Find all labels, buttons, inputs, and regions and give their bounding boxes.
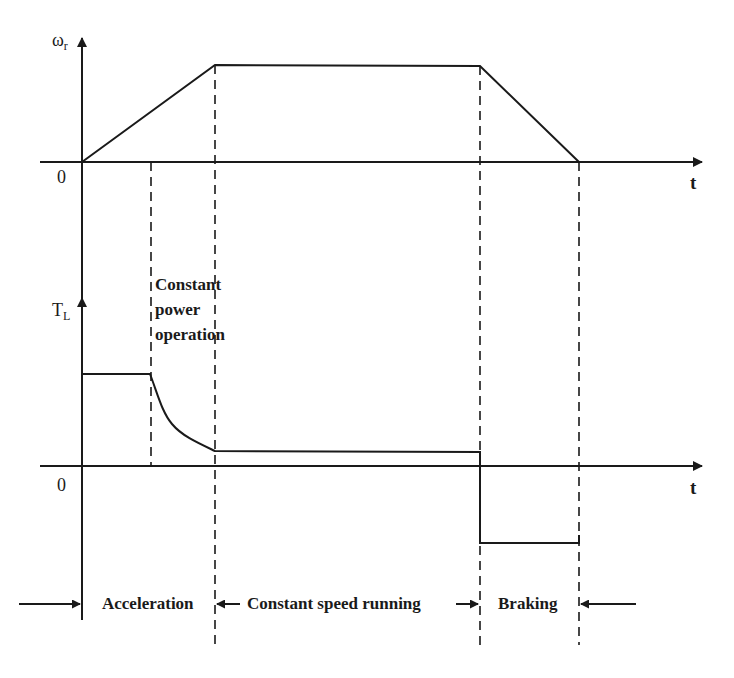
- torque-origin-label: 0: [57, 475, 66, 496]
- torque-symbol: T: [52, 300, 63, 320]
- phase-braking-label: Braking: [498, 594, 558, 614]
- speed-profile-curve: [82, 65, 579, 162]
- speed-origin-label: 0: [57, 167, 66, 188]
- annotation-line-1: Constant: [155, 272, 225, 297]
- annotation-line-3: operation: [155, 322, 225, 347]
- phase-acceleration-label: Acceleration: [102, 594, 194, 614]
- phase-constant-speed-label: Constant speed running: [247, 594, 421, 614]
- torque-subscript: L: [63, 309, 70, 323]
- torque-time-label: t: [690, 477, 696, 499]
- speed-torque-diagram: [0, 0, 734, 678]
- annotation-line-2: power: [155, 297, 225, 322]
- torque-axis-label: TL: [52, 300, 70, 324]
- torque-profile-curve: [82, 374, 579, 543]
- constant-power-annotation: Constant power operation: [155, 272, 225, 347]
- speed-axis-label: ωr: [52, 30, 68, 54]
- speed-subscript: r: [64, 39, 68, 53]
- omega-symbol: ω: [52, 30, 64, 50]
- speed-time-label: t: [690, 172, 696, 194]
